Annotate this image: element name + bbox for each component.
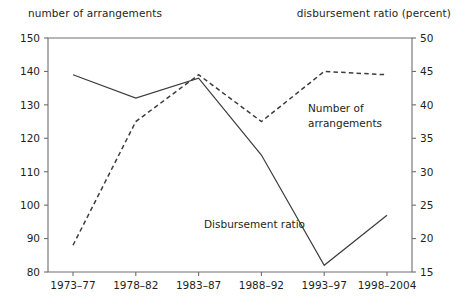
right-axis-ticks: 1520253035404550 <box>412 32 433 278</box>
right-tick-label: 20 <box>420 232 433 244</box>
right-tick-label: 50 <box>420 32 433 44</box>
x-axis-ticks: 1973–771978–821983–871988–921993–971998–… <box>50 272 416 291</box>
right-tick-label: 25 <box>420 199 433 211</box>
right-tick-label: 30 <box>420 166 433 178</box>
series-group <box>73 71 387 265</box>
x-tick-label: 1973–77 <box>50 279 95 291</box>
left-tick-label: 80 <box>27 266 40 278</box>
chart-container: number of arrangements disbursement rati… <box>0 0 460 303</box>
left-tick-label: 110 <box>20 166 40 178</box>
x-tick-label: 1978–82 <box>113 279 158 291</box>
annotation-arrangements-line2: arrangements <box>308 117 382 129</box>
right-tick-label: 45 <box>420 65 433 77</box>
left-tick-label: 120 <box>20 132 40 144</box>
x-tick-label: 1998–2004 <box>358 279 417 291</box>
left-tick-label: 150 <box>20 32 40 44</box>
left-axis-ticks: 8090100110120130140150 <box>20 32 48 278</box>
left-tick-label: 140 <box>20 65 40 77</box>
x-tick-label: 1993–97 <box>302 279 347 291</box>
plot-area: 8090100110120130140150 1520253035404550 … <box>0 0 460 303</box>
right-tick-label: 35 <box>420 132 433 144</box>
right-tick-label: 15 <box>420 266 433 278</box>
annotation-disbursement: Disbursement ratio <box>204 218 305 230</box>
x-tick-label: 1983–87 <box>176 279 221 291</box>
annotation-arrangements-line1: Number of <box>308 102 364 114</box>
left-tick-label: 90 <box>27 232 40 244</box>
left-tick-label: 130 <box>20 99 40 111</box>
x-tick-label: 1988–92 <box>239 279 284 291</box>
left-tick-label: 100 <box>20 199 40 211</box>
right-tick-label: 40 <box>420 99 433 111</box>
